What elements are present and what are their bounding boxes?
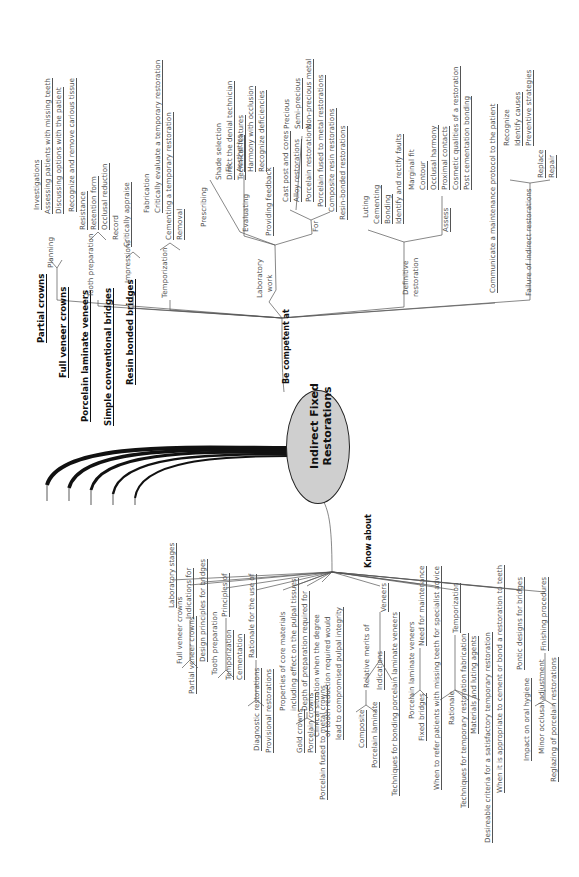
competent-node: Communicate a maintenance protocol to th… [489, 104, 498, 293]
know-about-node: Partial veneer crowns [188, 616, 197, 694]
clinical-type-node: Porcelain laminate veneers [80, 290, 91, 422]
competent-node: Post cementation bonding [463, 96, 472, 190]
know-about-node: Desireable criteria for a satisfactory t… [484, 632, 493, 843]
know-about-node: Fixed bridges [418, 693, 427, 741]
know-about-node: Rationale for the use of [248, 574, 257, 658]
competent-node: Resin-bonded restorations [339, 126, 348, 220]
competent-node: Failure of indirect restorations [525, 188, 533, 296]
competent-node: Prescribing [200, 187, 208, 227]
competent-node: Shade selection [215, 123, 223, 180]
know-about-node: Finishing procedures [540, 577, 549, 651]
know-about-node: Temporization [452, 583, 461, 633]
competent-node: Cosmetic qualities of a restoration [452, 66, 461, 190]
know-about-node: Full veneer crowns [176, 597, 184, 664]
competent-node: Porcelain restorations [305, 124, 314, 202]
branch-know-about: Know about [364, 514, 373, 568]
competent-node: Recognize deficiencies [258, 90, 267, 172]
know-about-node: Cementation [236, 634, 245, 680]
competent-node: Occlusal harmony [430, 125, 439, 190]
competent-node: Porcelain fused to metal restorations [317, 75, 326, 207]
competent-node: Tooth preparation [87, 234, 95, 298]
center-node-title: Indirect Fixed Restorations [308, 376, 334, 476]
know-about-node: Temporization [225, 630, 234, 680]
branch-be-competent-at: Be competent at [282, 309, 291, 384]
clinical-type-node: Simple conventional bridges [103, 288, 114, 426]
competent-node: Composite resin restorations [328, 109, 337, 213]
competent-node: Planning [47, 237, 55, 268]
know-about-node: Rationale [448, 691, 456, 725]
competent-node: Cementing [373, 185, 382, 224]
know-about-node: When it is appropriate to cement or bond… [496, 565, 505, 793]
know-about-node: Indications [376, 651, 385, 690]
competent-node: Temporization [161, 248, 169, 298]
competent-node: Semi-precious [294, 78, 303, 129]
know-about-node: of tooth reduction required would [324, 616, 332, 737]
know-about-node: Properties of core materials [279, 612, 287, 711]
know-about-node: Indications for [185, 568, 194, 619]
competent-node: Replace [537, 150, 546, 178]
center-title-line2: Restorations [321, 376, 334, 476]
competent-node: Harmony with occlusion [247, 86, 256, 172]
know-about-node: Diagnostic restorations [253, 668, 262, 751]
know-about-node: Techniques for bonding porcelain laminat… [391, 612, 400, 796]
know-about-node: Porcelain laminate veneers [408, 621, 416, 719]
know-about-node: Materials and luting agents [470, 636, 479, 734]
know-about-node: Porcelain laminate [371, 702, 380, 768]
competent-node: Fabrication [143, 173, 151, 213]
know-about-node: Veneers [380, 583, 389, 612]
competent-node: Laboratory [256, 259, 264, 298]
competent-node: Discussing options with the patient [55, 87, 64, 214]
know-about-node: Reglazing of porcelain restorations [550, 657, 559, 782]
know-about-node: Relative merits of [363, 625, 371, 688]
competent-node: Definitive [402, 260, 410, 295]
clinical-type-node: Partial crowns [36, 274, 47, 343]
competent-node: Assess [442, 208, 451, 232]
clinical-type-node: Resin bonded bridges [125, 280, 136, 386]
competent-node: Repair [548, 155, 557, 178]
know-about-node: Provisional restorations [265, 669, 274, 753]
competent-node: Identify and rectify faults [395, 134, 404, 224]
competent-node: Marginal fit [408, 149, 416, 190]
competent-node: work [266, 275, 274, 292]
know-about-node: including effect on the pulpal tissues [290, 578, 299, 711]
know-about-node: Techniques for temporary restoration fab… [460, 633, 469, 808]
know-about-node: lead to compromised pulpal integrity [335, 607, 344, 740]
competent-node: Cementing a temporary restoration [165, 112, 174, 240]
know-about-node: Need for maintenance [418, 566, 427, 646]
competent-node: Investigations [33, 160, 42, 210]
know-about-node: Principles of [221, 573, 230, 617]
competent-node: Removal [176, 209, 185, 240]
competent-node: Evaluating [242, 194, 250, 232]
competent-node: Record [112, 215, 120, 240]
competent-node: Proximal contacts [441, 126, 450, 190]
know-about-node: Design principles for bridges [199, 559, 208, 662]
know-about-node: Composite [358, 710, 367, 748]
center-title-line1: Indirect Fixed [308, 376, 321, 476]
competent-node: Identify causes [514, 92, 523, 146]
know-about-node: Minor occlusal adjustment [538, 659, 546, 754]
competent-node: Providing feedback [265, 167, 274, 236]
competent-node: Fit [225, 164, 233, 172]
clinical-type-node: Full veneer crowns [58, 287, 69, 378]
competent-node: Retention form [90, 176, 99, 230]
competent-node: Recognize [503, 109, 511, 146]
competent-node: Assessing patients with missing teeth [44, 78, 53, 214]
competent-node: For [312, 221, 320, 232]
competent-node: Precious [283, 99, 291, 129]
competent-node: Occlusal reduction [101, 163, 110, 230]
know-about-node: Pontic designs for bridges [516, 577, 525, 670]
competent-node: Non-precious metal [305, 59, 314, 129]
know-about-node: When to refer patients with missing teet… [433, 566, 442, 790]
competent-node: Critically appraise [123, 182, 132, 247]
competent-node: restoration [412, 258, 420, 297]
competent-node: Bonding [384, 194, 393, 224]
know-about-node: Tooth preparation [211, 612, 219, 676]
competent-node: Recognize and remove carious tissue [68, 78, 77, 212]
know-about-node: Gold crowns [296, 709, 305, 753]
competent-node: Luting [362, 196, 370, 218]
competent-node: Aesthetics [236, 135, 245, 172]
competent-node: Cast post and cores [282, 131, 291, 202]
competent-node: Alloy restorations [293, 139, 302, 202]
competent-node: Preventive strategies [525, 70, 534, 146]
know-about-node: Clinical situation when the degree [313, 614, 321, 737]
